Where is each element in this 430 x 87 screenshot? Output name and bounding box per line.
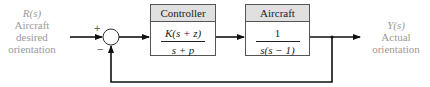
controller-title: Controller: [151, 5, 215, 22]
minus-sign: −: [97, 43, 103, 55]
fraction-bar: [256, 41, 300, 42]
output-signal: Y(s): [362, 19, 430, 31]
controller-numerator: K(s + z): [151, 27, 215, 39]
input-line2: desired: [0, 31, 64, 43]
fraction-bar: [161, 41, 205, 42]
input-signal: R(s): [0, 7, 64, 19]
controller-denominator: s + p: [151, 44, 215, 56]
controller-transfer-function: K(s + z) s + p: [151, 22, 215, 56]
controller-block: Controller K(s + z) s + p: [150, 4, 216, 56]
output-label: Y(s) Actual orientation: [362, 19, 430, 55]
output-line2: orientation: [362, 43, 430, 55]
plus-sign: +: [94, 22, 100, 34]
input-label: R(s) Aircraft desired orientation: [0, 7, 64, 55]
plant-denominator: s(s − 1): [246, 44, 309, 56]
plant-numerator: 1: [246, 27, 309, 39]
input-line3: orientation: [0, 43, 64, 55]
output-line1: Actual: [362, 31, 430, 43]
plant-title: Aircraft: [246, 5, 309, 22]
plant-transfer-function: 1 s(s − 1): [246, 22, 309, 56]
input-line1: Aircraft: [0, 19, 64, 31]
plant-block: Aircraft 1 s(s − 1): [245, 4, 310, 56]
